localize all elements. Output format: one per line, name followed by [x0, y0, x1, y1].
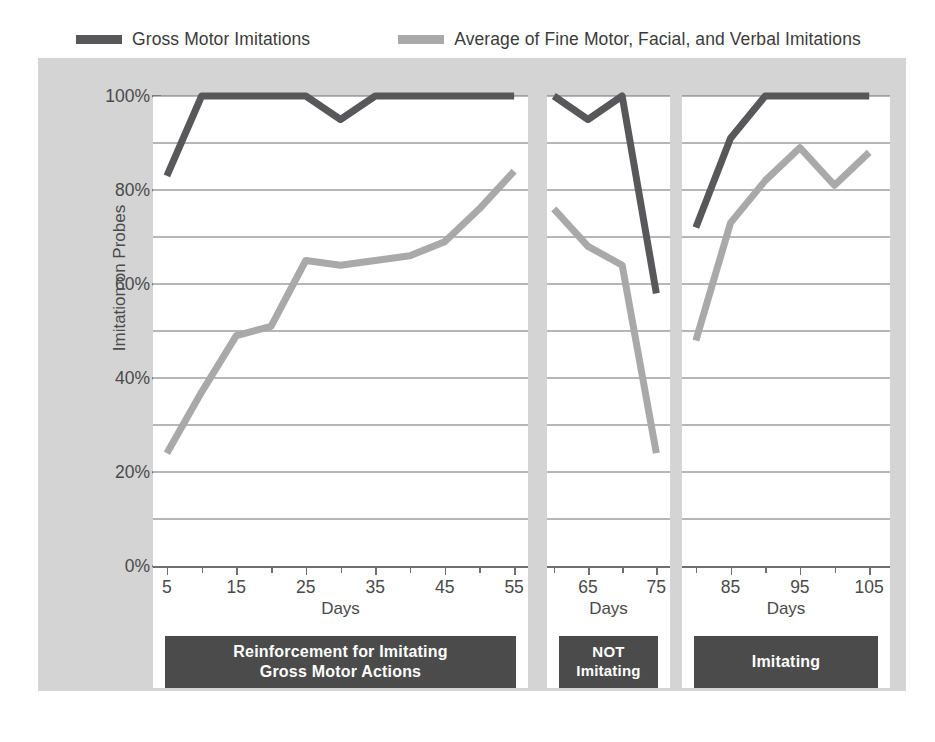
series-line [696, 148, 869, 341]
legend-item-fine-facial-verbal: Average of Fine Motor, Facial, and Verba… [398, 29, 861, 50]
x-tick-major [731, 566, 733, 575]
legend-label-fine-facial-verbal: Average of Fine Motor, Facial, and Verba… [454, 29, 861, 50]
phase-label-panel-2: Imitating [694, 636, 878, 688]
x-axis-panel-1: Days 6575 [547, 566, 670, 628]
x-tick-minor [341, 566, 343, 573]
chart-panel-reinforcement: Days 51525354555 Reinforcement for Imita… [153, 96, 528, 688]
x-tick-minor [554, 566, 556, 573]
x-tick-major [656, 566, 658, 575]
legend-swatch-fine-facial-verbal [398, 35, 444, 44]
x-axis-title-panel-0: Days [321, 599, 360, 619]
series-line [554, 96, 657, 293]
x-tick-label: 105 [855, 577, 884, 598]
x-tick-minor [202, 566, 204, 573]
phase-label-line1: Imitating [752, 652, 820, 672]
x-axis-panel-2: Days 8595105 [682, 566, 890, 628]
x-tick-label: 85 [721, 577, 740, 598]
x-axis-panel-0: Days 51525354555 [153, 566, 528, 628]
panel-plot-svg [153, 96, 528, 566]
series-line [167, 171, 514, 453]
y-tick-label: 20% [98, 462, 150, 483]
phase-label-line1: Reinforcement for Imitating [233, 643, 447, 660]
x-tick-label: 65 [578, 577, 597, 598]
chart-legend: Gross Motor Imitations Average of Fine M… [0, 22, 935, 56]
x-axis-title-panel-1: Days [589, 599, 628, 619]
chart-panel-not-imitating: Days 6575 NOT Imitating [547, 96, 670, 688]
x-tick-minor [835, 566, 837, 573]
x-tick-major [588, 566, 590, 575]
x-tick-major [306, 566, 308, 575]
plot-area-panel-2 [682, 96, 890, 566]
x-tick-major [375, 566, 377, 575]
x-tick-minor [622, 566, 624, 573]
phase-label-line1: NOT [592, 643, 624, 660]
plot-area-panel-1 [547, 96, 670, 566]
legend-item-gross-motor: Gross Motor Imitations [76, 29, 310, 50]
x-axis-line [682, 566, 890, 568]
x-tick-major [445, 566, 447, 575]
x-tick-label: 15 [227, 577, 246, 598]
x-tick-major [869, 566, 871, 575]
x-tick-label: 55 [504, 577, 523, 598]
x-axis-title-panel-2: Days [767, 599, 806, 619]
x-tick-label: 35 [365, 577, 384, 598]
legend-label-gross-motor: Gross Motor Imitations [132, 29, 310, 50]
x-tick-minor [765, 566, 767, 573]
x-tick-label: 75 [647, 577, 666, 598]
y-tick-label: 100% [98, 86, 150, 107]
plot-area-panel-0 [153, 96, 528, 566]
y-tick-label: 0% [98, 556, 150, 577]
chart-body: Imitation on Probes 0%20%40%60%80%100% D… [38, 58, 906, 691]
y-tick-label: 80% [98, 180, 150, 201]
x-tick-major [167, 566, 169, 575]
phase-label-panel-0: Reinforcement for Imitating Gross Motor … [165, 636, 516, 688]
x-tick-minor [696, 566, 698, 573]
y-tick-label: 40% [98, 368, 150, 389]
y-tick-label: 60% [98, 274, 150, 295]
chart-panel-imitating: Days 8595105 Imitating [682, 96, 890, 688]
x-tick-major [800, 566, 802, 575]
phase-label-line2: Gross Motor Actions [260, 663, 421, 680]
x-tick-label: 95 [790, 577, 809, 598]
x-tick-minor [271, 566, 273, 573]
x-tick-minor [410, 566, 412, 573]
y-axis-tick-labels: 0%20%40%60%80%100% [98, 96, 150, 606]
x-axis-line [547, 566, 670, 568]
panel-plot-svg [682, 96, 890, 566]
x-tick-label: 25 [296, 577, 315, 598]
panel-plot-svg [547, 96, 670, 566]
series-line [167, 96, 514, 176]
x-tick-major [236, 566, 238, 575]
x-tick-label: 5 [162, 577, 172, 598]
phase-label-panel-1: NOT Imitating [559, 636, 658, 688]
x-tick-minor [479, 566, 481, 573]
x-tick-label: 45 [435, 577, 454, 598]
legend-swatch-gross-motor [76, 35, 122, 44]
phase-label-line2: Imitating [576, 662, 640, 679]
x-tick-major [514, 566, 516, 575]
